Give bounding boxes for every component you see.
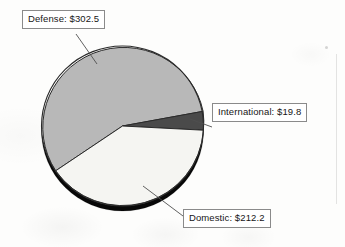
pie-chart <box>0 0 345 247</box>
callout-defense[interactable]: Defense: $302.5 <box>22 10 105 29</box>
callout-domestic[interactable]: Domestic: $212.2 <box>183 209 271 228</box>
pie-slices <box>43 47 204 205</box>
callout-international[interactable]: International: $19.8 <box>212 103 307 122</box>
